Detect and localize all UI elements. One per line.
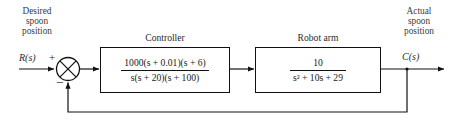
controller-transfer-function: 1000(s + 0.01)(s + 6) s(s + 20)(s + 100) <box>121 57 208 84</box>
block-diagram-canvas: Desired spoon position Actual spoon posi… <box>0 0 450 127</box>
robot-arm-transfer-function: 10 s² + 10s + 29 <box>290 57 346 84</box>
controller-denominator: s(s + 20)(s + 100) <box>121 71 208 84</box>
actual-position-annotation: Actual spoon position <box>390 6 448 36</box>
controller-numerator: 1000(s + 0.01)(s + 6) <box>121 57 208 71</box>
robot-arm-block[interactable]: 10 s² + 10s + 29 <box>255 47 381 93</box>
output-signal-label: C(s) <box>402 52 419 63</box>
controller-block-caption: Controller <box>100 33 230 43</box>
desired-position-line-3: position <box>6 26 68 36</box>
desired-position-annotation: Desired spoon position <box>6 6 68 36</box>
robot-arm-block-caption: Robot arm <box>255 33 381 43</box>
robot-arm-denominator: s² + 10s + 29 <box>290 71 346 84</box>
summing-junction-plus-sign: + <box>49 52 55 64</box>
summing-junction-minus-sign: − <box>56 76 63 90</box>
actual-position-line-2: spoon <box>390 16 448 26</box>
robot-arm-numerator: 10 <box>290 57 346 71</box>
desired-position-line-1: Desired <box>6 6 68 16</box>
input-signal-label: R(s) <box>19 53 36 64</box>
controller-block[interactable]: 1000(s + 0.01)(s + 6) s(s + 20)(s + 100) <box>100 47 230 93</box>
desired-position-line-2: spoon <box>6 16 68 26</box>
actual-position-line-3: position <box>390 26 448 36</box>
actual-position-line-1: Actual <box>390 6 448 16</box>
